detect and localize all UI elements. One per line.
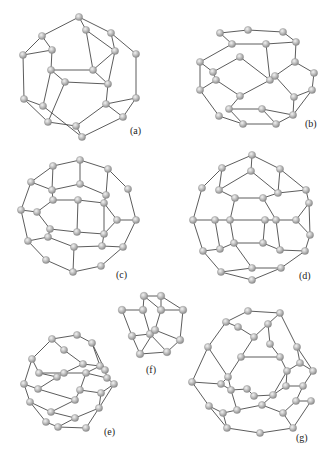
atom	[132, 94, 139, 101]
atom	[196, 86, 203, 93]
atom	[259, 194, 266, 201]
atom	[110, 380, 117, 387]
atom	[38, 32, 45, 39]
bond	[266, 44, 270, 80]
atom	[49, 196, 56, 203]
bond	[266, 42, 296, 44]
atom	[199, 247, 206, 254]
atom	[76, 156, 83, 163]
bond	[208, 322, 226, 347]
atom	[60, 346, 67, 353]
atom	[269, 391, 276, 398]
atom	[266, 340, 273, 347]
bond	[280, 313, 297, 347]
atom	[305, 199, 312, 206]
atom	[234, 323, 241, 330]
atom	[47, 408, 54, 415]
bond	[221, 272, 252, 280]
atom	[151, 326, 159, 334]
bond	[24, 359, 32, 384]
atom	[20, 380, 27, 387]
atom	[107, 29, 114, 36]
atom	[204, 343, 211, 350]
bond	[21, 182, 31, 210]
cage-panel-d: (d)	[189, 151, 313, 283]
atom	[26, 398, 33, 405]
atom	[35, 369, 42, 376]
bond	[106, 169, 108, 195]
atom	[299, 382, 306, 389]
atom	[215, 112, 222, 119]
bond	[53, 160, 80, 166]
atom	[248, 264, 255, 271]
bond	[193, 188, 202, 220]
panel-label-e: (e)	[104, 426, 115, 438]
atom	[98, 242, 105, 249]
atom	[274, 189, 281, 196]
atom	[247, 167, 254, 174]
cage-panel-b: (b)	[196, 26, 317, 130]
panel-label-f: (f)	[146, 364, 156, 376]
panel-label-c: (c)	[116, 269, 127, 281]
bond	[140, 352, 167, 354]
atom	[82, 424, 89, 431]
atom	[119, 243, 126, 250]
bond	[208, 347, 228, 377]
bond	[237, 405, 262, 410]
atom	[239, 120, 246, 127]
atom	[223, 424, 230, 431]
bond	[80, 160, 108, 169]
atom	[307, 397, 314, 404]
bond	[280, 169, 306, 190]
atom	[308, 86, 315, 93]
atom	[140, 292, 148, 300]
atom	[157, 292, 165, 300]
atom	[306, 231, 313, 238]
atom	[258, 401, 265, 408]
atom	[44, 233, 51, 240]
bond	[48, 122, 76, 126]
atom	[292, 216, 299, 223]
atom	[225, 105, 232, 112]
atom	[100, 230, 107, 237]
bond	[76, 104, 106, 126]
atom	[176, 336, 184, 344]
atom	[233, 406, 240, 413]
atom	[70, 243, 77, 250]
bond	[192, 347, 208, 382]
bond	[123, 220, 136, 247]
bond	[220, 30, 248, 33]
atom	[73, 331, 80, 338]
atom	[244, 26, 251, 33]
atom	[290, 93, 297, 100]
atom	[103, 374, 110, 381]
atom	[74, 196, 81, 203]
atom	[49, 162, 56, 169]
atom	[79, 360, 86, 367]
atom	[289, 424, 296, 431]
bond	[65, 82, 108, 84]
bond	[78, 200, 104, 203]
atom	[46, 225, 53, 232]
atom	[216, 29, 223, 36]
atom	[20, 95, 27, 102]
atom	[198, 184, 205, 191]
atom	[188, 378, 195, 385]
atom	[48, 186, 55, 193]
bond	[227, 428, 260, 433]
atom	[42, 256, 49, 263]
atom	[24, 237, 31, 244]
bond	[202, 168, 222, 188]
bond	[46, 260, 73, 272]
bond	[73, 266, 101, 272]
atom	[113, 216, 120, 223]
atom	[139, 306, 147, 314]
panel-label-g: (g)	[296, 432, 308, 444]
atom	[272, 120, 279, 127]
panel-label-d: (d)	[299, 270, 311, 282]
atom	[78, 133, 85, 140]
atom	[301, 247, 308, 254]
bond	[193, 220, 203, 251]
atom	[209, 68, 216, 75]
atom	[222, 318, 229, 325]
